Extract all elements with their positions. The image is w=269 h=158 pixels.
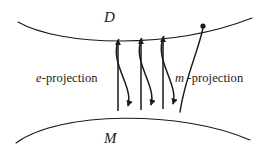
top-manifold-label-D: D <box>104 10 115 25</box>
m-projection-label: m -projection <box>175 72 243 85</box>
curve-from-point-to-M <box>180 28 203 112</box>
bottom-manifold-label-M: M <box>104 131 117 146</box>
projection-diagram-figure: D M e-projection m -projection <box>0 0 269 158</box>
m-projection-suffix: -projection <box>184 71 243 85</box>
point-marker-on-D <box>200 23 205 28</box>
m-projection-symbol: m <box>175 71 184 85</box>
e-projection-suffix: -projection <box>42 71 98 85</box>
e-projection-label: e-projection <box>36 72 98 85</box>
bottom-manifold-curve-M <box>16 118 250 143</box>
top-manifold-curve-D <box>18 18 252 41</box>
